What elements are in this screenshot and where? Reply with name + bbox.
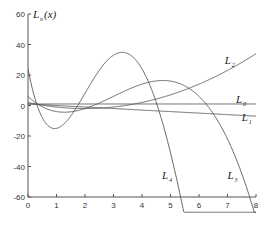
curve-label-sub-l0: 0 bbox=[243, 101, 246, 107]
y-axis-label: L n (x) bbox=[32, 8, 57, 22]
curve-l3 bbox=[28, 81, 256, 213]
curve-label-l1: L bbox=[241, 111, 248, 123]
laguerre-polynomials-chart: -60-40-200204060012345678 L0L1L2L3L4 L n… bbox=[0, 0, 272, 237]
curves bbox=[28, 52, 256, 212]
y-tick-label: 0 bbox=[21, 102, 26, 111]
curve-label-l4: L bbox=[161, 169, 168, 181]
curve-label-sub-l1: 1 bbox=[249, 119, 252, 125]
curve-label-l0: L bbox=[235, 93, 242, 105]
y-tick-label: -60 bbox=[13, 193, 25, 202]
x-tick-label: 5 bbox=[168, 201, 173, 210]
y-tick-label: 40 bbox=[16, 41, 25, 50]
x-tick-label: 3 bbox=[111, 201, 116, 210]
x-tick-label: 2 bbox=[83, 201, 88, 210]
y-tick-label: -20 bbox=[13, 132, 25, 141]
curve-label-sub-l2: 2 bbox=[232, 62, 235, 68]
x-tick-label: 4 bbox=[140, 201, 145, 210]
y-axis-label-tail: (x) bbox=[44, 8, 57, 21]
x-tick-label: 6 bbox=[197, 201, 202, 210]
curve-label-sub-l3: 3 bbox=[234, 177, 238, 183]
x-tick-label: 1 bbox=[54, 201, 59, 210]
x-tick-label: 7 bbox=[225, 201, 230, 210]
y-tick-label: 60 bbox=[16, 10, 25, 19]
curve-label-sub-l4: 4 bbox=[169, 177, 172, 183]
y-tick-label: -40 bbox=[13, 163, 25, 172]
y-tick-label: 20 bbox=[16, 71, 25, 80]
x-tick-label: 8 bbox=[254, 201, 259, 210]
curve-l4 bbox=[28, 52, 256, 212]
y-axis-label-sub: n bbox=[40, 16, 43, 22]
curve-l1 bbox=[28, 104, 256, 116]
curve-label-l3: L bbox=[227, 169, 234, 181]
curve-l2 bbox=[28, 54, 256, 109]
x-tick-label: 0 bbox=[26, 201, 31, 210]
y-axis-label-main: L bbox=[32, 8, 39, 20]
curve-label-l2: L bbox=[224, 54, 231, 66]
